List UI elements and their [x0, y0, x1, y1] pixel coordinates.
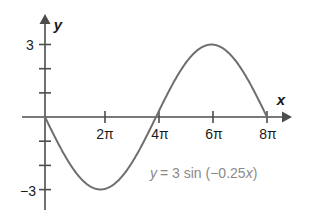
y-axis-tick-label-minus3: −3: [20, 183, 36, 199]
x-axis-tick-label-2pi: 2π: [96, 126, 114, 142]
x-axis-arrow-icon: [282, 112, 292, 123]
x-axis-tick-label-4pi: 4π: [151, 126, 169, 142]
y-axis-tick-label-3: 3: [26, 37, 34, 53]
y-axis-label: y: [53, 16, 63, 33]
y-axis-arrow-icon: [40, 14, 51, 24]
x-axis-label: x: [276, 91, 286, 108]
equation-close-paren: ): [253, 165, 258, 181]
equation-lhs-var: y: [149, 165, 158, 181]
x-axis-tick-label-6pi: 6π: [205, 126, 223, 142]
equation-body: = 3 sin (−0.25: [160, 165, 246, 181]
x-axis-tick-label-8pi: 8π: [259, 126, 277, 142]
sine-graph-figure: 3 −3 2π 4π 6π 8π y x y= 3 sin (−0.25x): [0, 0, 309, 210]
coordinate-plane: 3 −3 2π 4π 6π 8π y x y= 3 sin (−0.25x): [0, 0, 309, 210]
equation-annotation: y= 3 sin (−0.25x): [149, 165, 257, 181]
